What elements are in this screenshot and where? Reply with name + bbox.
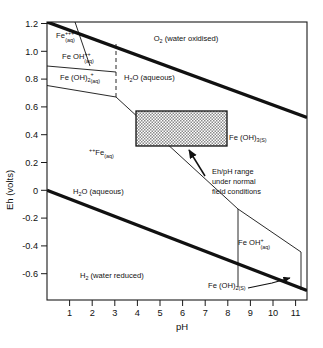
y-tick-label: 0.4 <box>25 130 38 140</box>
y-tick-label: 0.6 <box>25 102 38 112</box>
x-tick-label: 2 <box>90 308 95 318</box>
x-tick-label: 8 <box>225 308 230 318</box>
y-tick-label: -0.4 <box>22 241 38 251</box>
y-axis-tick-labels: 1.2 1.0 0.8 0.6 0.4 0.2 0 -0.2 -0.4 -0.6 <box>22 19 38 279</box>
annotation-line-3: field conditions <box>212 187 261 196</box>
eh-ph-diagram-figure: 1.2 1.0 0.8 0.6 0.4 0.2 0 -0.2 -0.4 -0.6… <box>0 0 323 348</box>
x-tick-label: 6 <box>180 308 185 318</box>
y-tick-label: -0.6 <box>22 269 38 279</box>
x-tick-label: 11 <box>291 308 301 318</box>
x-axis-title: pH <box>176 321 188 332</box>
x-tick-label: 10 <box>268 308 278 318</box>
x-tick-label: 1 <box>67 308 72 318</box>
x-axis-tick-labels: 1 2 3 4 5 6 7 8 9 10 11 <box>67 308 300 318</box>
label-water-upper-region: H2O (aqueous) <box>124 73 175 83</box>
label-water-lower-region: H2O (aqueous) <box>73 187 124 197</box>
y-tick-label: 0.2 <box>25 158 38 168</box>
x-tick-label: 9 <box>248 308 253 318</box>
y-tick-label: 1.0 <box>25 47 38 57</box>
field-conditions-box <box>136 111 227 146</box>
y-tick-label: 0 <box>33 186 38 196</box>
figure-caption-strip <box>0 333 323 348</box>
x-axis-ticks <box>70 300 296 306</box>
annotation-line-2: under normal <box>212 177 256 186</box>
label-hydrogen-region: H2 (water reduced) <box>80 271 144 281</box>
y-tick-label: 1.2 <box>25 19 38 29</box>
x-tick-label: 4 <box>135 308 140 318</box>
y-tick-label: -0.2 <box>22 213 38 223</box>
y-tick-label: 0.8 <box>25 74 38 84</box>
x-tick-label: 3 <box>112 308 117 318</box>
x-tick-label: 7 <box>203 308 208 318</box>
eh-ph-diagram-svg: 1.2 1.0 0.8 0.6 0.4 0.2 0 -0.2 -0.4 -0.6… <box>0 0 323 348</box>
y-axis-ticks <box>41 24 47 274</box>
x-tick-label: 5 <box>157 308 162 318</box>
y-axis-title: Eh (volts) <box>4 170 15 210</box>
label-oxygen-region: O2 (water oxidised) <box>154 34 219 44</box>
annotation-line-1: Eh/pH range <box>212 167 254 176</box>
